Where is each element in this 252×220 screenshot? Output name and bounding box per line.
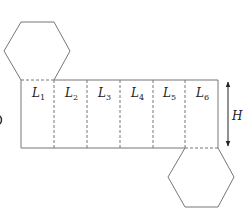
lateral-faces-strip xyxy=(21,80,218,148)
face-label-6: L6 xyxy=(195,86,209,102)
top-hexagon-base xyxy=(4,22,70,80)
face-label-2: L2 xyxy=(64,86,78,102)
face-label-3: L3 xyxy=(97,86,111,102)
hexagonal-prism-net: L1 L2 L3 L4 L5 L6 H xyxy=(0,0,252,220)
face-label-1: L1 xyxy=(31,86,45,102)
bottom-hexagon-base xyxy=(168,148,234,207)
cropped-mark xyxy=(0,116,2,124)
face-label-4: L4 xyxy=(130,86,144,102)
face-label-5: L5 xyxy=(162,86,176,102)
height-label: H xyxy=(231,109,243,123)
